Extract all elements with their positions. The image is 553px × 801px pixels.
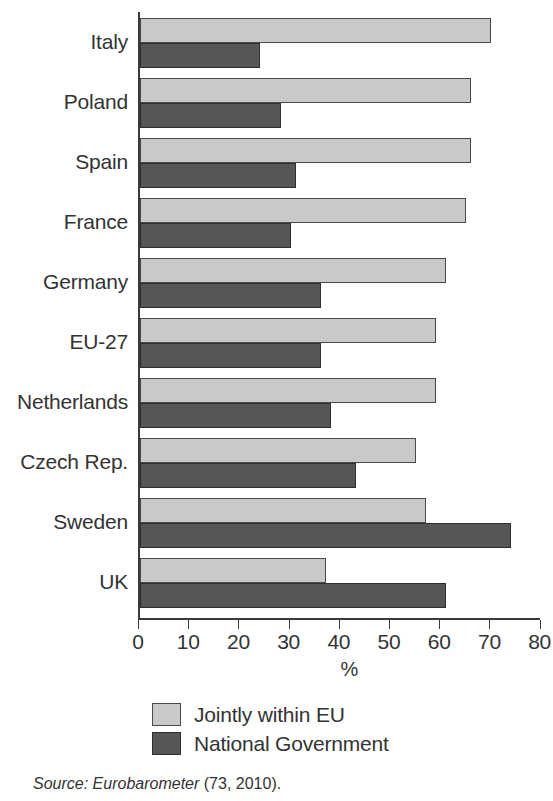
x-axis-tick-label: 60 xyxy=(419,630,459,654)
bar-national-government xyxy=(140,463,356,488)
bar-national-government xyxy=(140,43,260,68)
category-label: Czech Rep. xyxy=(0,450,128,474)
bar-national-government xyxy=(140,343,321,368)
bar-national-government xyxy=(140,223,291,248)
bar-national-government xyxy=(140,163,296,188)
x-axis-tick xyxy=(439,620,440,629)
x-axis-tick-label: 80 xyxy=(520,630,553,654)
x-axis-tick-label: 10 xyxy=(168,630,208,654)
category-label: Netherlands xyxy=(0,390,128,414)
category-label: Sweden xyxy=(0,510,128,534)
x-axis-tick xyxy=(238,620,239,629)
bar-national-government xyxy=(140,583,446,608)
legend-label-jointly-within-eu: Jointly within EU xyxy=(194,703,345,727)
bar-chart-figure: ItalyPolandSpainFranceGermanyEU-27Nether… xyxy=(0,0,553,801)
chart-row: UK xyxy=(0,558,553,608)
bar-jointly-within-eu xyxy=(140,78,471,103)
category-label: Spain xyxy=(0,150,128,174)
bar-jointly-within-eu xyxy=(140,258,446,283)
chart-row: Germany xyxy=(0,258,553,308)
source-note: Source: Eurobarometer (73, 2010). xyxy=(33,775,281,793)
category-label: EU-27 xyxy=(0,330,128,354)
x-axis-tick-label: 40 xyxy=(319,630,359,654)
plot-area: ItalyPolandSpainFranceGermanyEU-27Nether… xyxy=(0,0,553,640)
x-axis-tick-label: 20 xyxy=(218,630,258,654)
chart-row: Italy xyxy=(0,18,553,68)
bar-national-government xyxy=(140,103,281,128)
bar-jointly-within-eu xyxy=(140,558,326,583)
bar-national-government xyxy=(140,283,321,308)
x-axis-tick-label: 0 xyxy=(118,630,158,654)
x-axis-tick xyxy=(489,620,490,629)
x-axis-title-text: % xyxy=(195,658,359,680)
x-axis-tick xyxy=(339,620,340,629)
legend-item-national-government: National Government xyxy=(152,729,389,758)
bar-jointly-within-eu xyxy=(140,198,466,223)
category-label: UK xyxy=(0,570,128,594)
bar-jointly-within-eu xyxy=(140,378,436,403)
legend-swatch-icon-light xyxy=(152,703,181,726)
bar-jointly-within-eu xyxy=(140,438,416,463)
bar-jointly-within-eu xyxy=(140,138,471,163)
x-axis-tick-label: 30 xyxy=(269,630,309,654)
chart-row: Netherlands xyxy=(0,378,553,428)
x-axis-tick xyxy=(289,620,290,629)
bar-national-government xyxy=(140,403,331,428)
source-reference: (73, 2010). xyxy=(204,775,281,792)
x-axis-tick-label: 70 xyxy=(469,630,509,654)
source-prefix: Source: xyxy=(33,775,88,792)
chart-row: Poland xyxy=(0,78,553,128)
x-axis-tick xyxy=(389,620,390,629)
chart-row: EU-27 xyxy=(0,318,553,368)
chart-row: France xyxy=(0,198,553,248)
x-axis-title: % xyxy=(0,658,553,681)
category-label: Italy xyxy=(0,30,128,54)
x-axis-tick xyxy=(138,620,139,629)
category-label: Germany xyxy=(0,270,128,294)
bar-national-government xyxy=(140,523,511,548)
chart-row: Spain xyxy=(0,138,553,188)
bar-jointly-within-eu xyxy=(140,498,426,523)
legend-item-jointly-within-eu: Jointly within EU xyxy=(152,700,389,729)
category-label: Poland xyxy=(0,90,128,114)
chart-legend: Jointly within EU National Government xyxy=(152,700,389,758)
x-axis-tick-label: 50 xyxy=(369,630,409,654)
category-label: France xyxy=(0,210,128,234)
x-axis-tick xyxy=(540,620,541,629)
legend-swatch-icon-dark xyxy=(152,732,181,755)
bar-jointly-within-eu xyxy=(140,318,436,343)
source-publication: Eurobarometer xyxy=(93,775,200,792)
chart-row: Sweden xyxy=(0,498,553,548)
bar-jointly-within-eu xyxy=(140,18,491,43)
legend-label-national-government: National Government xyxy=(194,732,389,756)
x-axis-tick xyxy=(188,620,189,629)
chart-row: Czech Rep. xyxy=(0,438,553,488)
